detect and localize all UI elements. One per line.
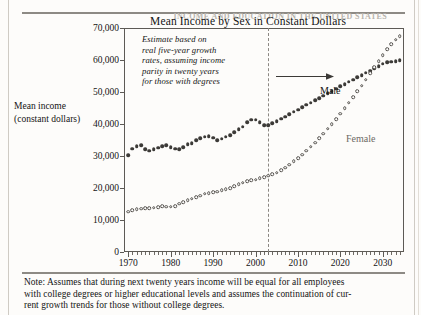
data-point-female [364, 78, 368, 82]
x-tick-minor [336, 252, 337, 255]
data-point-female [135, 208, 139, 212]
annotation-line: rates, assuming income [142, 55, 260, 66]
data-point-male [275, 119, 279, 123]
data-point-male [266, 123, 270, 127]
data-point-male [211, 136, 215, 140]
chart-annotation: Estimate based onreal five-year growthra… [142, 34, 260, 87]
x-tick-minor [345, 252, 346, 255]
series-label-female: Female [346, 133, 375, 144]
data-point-female [224, 187, 228, 191]
x-tick-minor [247, 252, 248, 255]
y-tick-mark [120, 188, 124, 189]
data-point-female [309, 145, 313, 149]
x-tick-minor [175, 252, 176, 255]
x-tick-label: 2020 [331, 258, 350, 269]
data-point-female [266, 174, 270, 178]
data-point-female [258, 176, 262, 180]
data-point-female [326, 127, 330, 131]
data-point-male [394, 59, 398, 63]
x-tick-minor [294, 252, 295, 255]
x-tick-minor [306, 252, 307, 255]
x-tick-major [298, 252, 299, 257]
data-point-male [177, 147, 181, 151]
y-tick-mark [120, 124, 124, 125]
data-point-female [283, 166, 287, 170]
data-point-female [343, 107, 347, 111]
data-point-male [347, 80, 351, 84]
x-tick-minor [260, 252, 261, 255]
data-point-male [169, 145, 173, 149]
data-point-female [339, 112, 343, 116]
data-point-female [373, 66, 377, 70]
data-point-male [131, 147, 135, 151]
data-point-male [207, 134, 211, 138]
x-tick-minor [239, 252, 240, 255]
data-point-female [334, 117, 338, 121]
data-point-male [360, 73, 364, 77]
projection-divider-line [268, 28, 269, 252]
note-line: rent growth trends for those without col… [24, 300, 403, 312]
data-point-male [203, 135, 207, 139]
x-tick-minor [230, 252, 231, 255]
data-point-male [143, 147, 147, 151]
x-tick-minor [251, 252, 252, 255]
annotation-line: parity in twenty years [142, 66, 260, 77]
x-tick-minor [217, 252, 218, 255]
data-point-female [385, 47, 389, 51]
data-point-female [292, 160, 296, 164]
data-point-female [254, 178, 258, 182]
x-tick-minor [366, 252, 367, 255]
data-point-female [398, 35, 402, 39]
x-tick-label: 2030 [373, 258, 392, 269]
data-point-male [216, 138, 220, 142]
x-tick-minor [264, 252, 265, 255]
data-point-female [165, 205, 169, 209]
data-point-male [292, 110, 296, 114]
data-point-female [139, 207, 143, 211]
data-point-female [288, 163, 292, 167]
x-tick-minor [277, 252, 278, 255]
y-tick-label: 10,000 [93, 215, 119, 225]
data-point-female [377, 59, 381, 63]
data-point-male [300, 106, 304, 110]
x-tick-minor [205, 252, 206, 255]
data-point-male [309, 101, 313, 105]
data-point-male [296, 108, 300, 112]
data-point-male [381, 62, 385, 66]
x-tick-minor [315, 252, 316, 255]
x-tick-minor [222, 252, 223, 255]
x-tick-minor [349, 252, 350, 255]
header-rule: INCOME AND EDUCATION IN THE UNITED STATE… [22, 12, 405, 14]
data-point-female [313, 141, 317, 145]
data-point-female [207, 191, 211, 195]
note-line: with college degrees or higher education… [24, 289, 403, 301]
x-tick-minor [179, 252, 180, 255]
note-rule [22, 272, 405, 274]
x-tick-major [256, 252, 257, 257]
x-tick-minor [272, 252, 273, 255]
x-tick-minor [166, 252, 167, 255]
x-tick-minor [149, 252, 150, 255]
data-point-female [169, 205, 173, 209]
x-tick-minor [234, 252, 235, 255]
data-point-male [233, 131, 237, 135]
x-tick-minor [302, 252, 303, 255]
data-point-female [182, 200, 186, 204]
x-tick-minor [158, 252, 159, 255]
data-point-male [186, 143, 190, 147]
data-point-male [126, 154, 130, 158]
page-outer-rule [418, 0, 419, 315]
x-tick-minor [362, 252, 363, 255]
data-point-female [305, 149, 309, 153]
y-tick-mark [120, 60, 124, 61]
x-tick-minor [391, 252, 392, 255]
y-tick-mark [120, 156, 124, 157]
annotation-line: for those with degrees [142, 76, 260, 87]
x-tick-minor [332, 252, 333, 255]
y-tick-mark [120, 28, 124, 29]
data-point-female [216, 190, 220, 194]
data-point-male [356, 75, 360, 79]
data-point-male [160, 145, 164, 149]
x-tick-minor [154, 252, 155, 255]
data-point-male [152, 147, 156, 151]
